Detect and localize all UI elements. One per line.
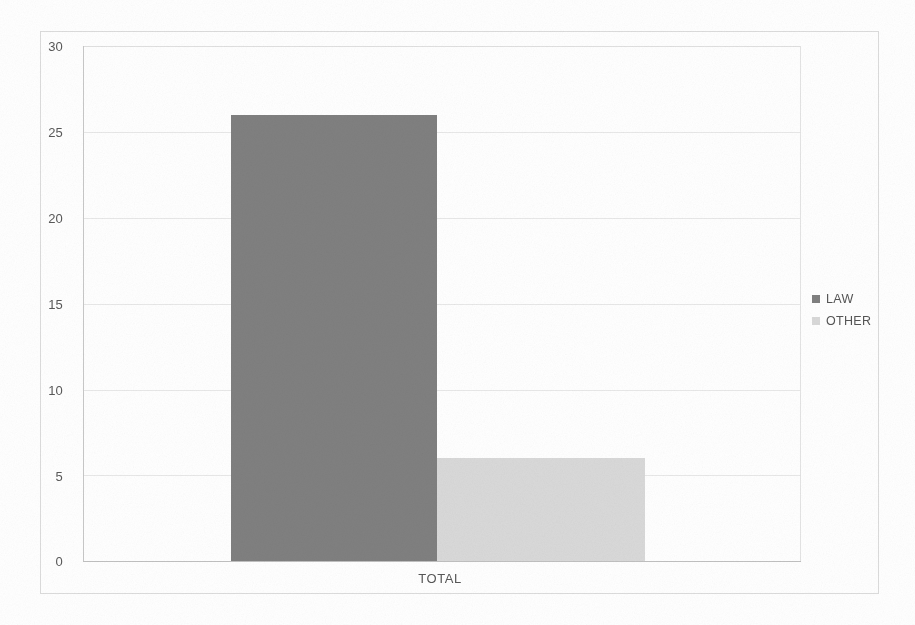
plot-top-edge [83, 46, 801, 47]
x-category-label-total: TOTAL [300, 571, 580, 586]
plot-right-edge [800, 46, 801, 562]
legend-item-other[interactable]: OTHER [812, 310, 884, 332]
legend-label-law: LAW [826, 293, 854, 306]
y-tick-label-30: 30 [7, 40, 63, 53]
y-tick-label-20: 20 [7, 212, 63, 225]
y-tick-label-5: 5 [7, 470, 63, 483]
gridline-20 [83, 218, 800, 219]
y-tick-label-25: 25 [7, 126, 63, 139]
y-tick-label-15: 15 [7, 298, 63, 311]
gridline-10 [83, 390, 800, 391]
y-tick-label-0: 0 [7, 555, 63, 568]
legend-item-law[interactable]: LAW [812, 288, 884, 310]
legend: LAW OTHER [812, 288, 884, 332]
gridline-15 [83, 304, 800, 305]
legend-label-other: OTHER [826, 315, 871, 328]
y-tick-label-10: 10 [7, 384, 63, 397]
legend-swatch-law-icon [812, 295, 820, 303]
x-axis-line [83, 561, 801, 562]
y-axis-line [83, 46, 84, 562]
gridline-25 [83, 132, 800, 133]
bar-other[interactable] [437, 458, 645, 561]
legend-swatch-other-icon [812, 317, 820, 325]
bar-law[interactable] [231, 115, 437, 561]
